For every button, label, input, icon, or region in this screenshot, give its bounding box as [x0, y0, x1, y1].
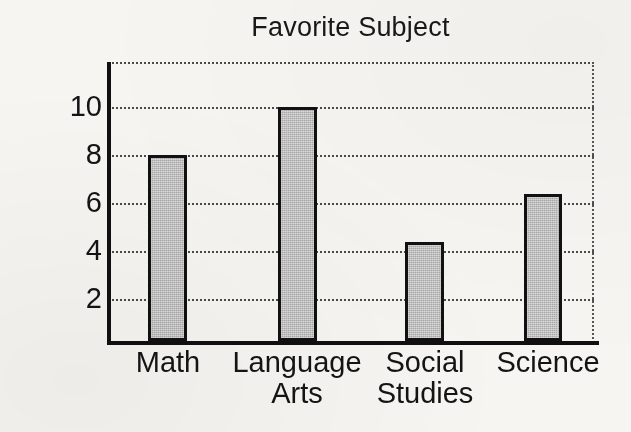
x-tick-label-science: Science	[482, 347, 614, 378]
chart-title: Favorite Subject	[107, 12, 594, 43]
y-tick-label-4: 4	[2, 236, 102, 265]
y-tick-label-2: 2	[2, 284, 102, 313]
y-tick-label-8: 8	[2, 140, 102, 169]
bar-science	[524, 194, 562, 341]
y-tick-label-6: 6	[2, 188, 102, 217]
right-axis-dotted-edge	[592, 62, 594, 343]
bar-chart: Favorite Subject Number of Students 10 8…	[0, 0, 631, 432]
x-axis-line	[107, 341, 599, 345]
x-tick-label-social-studies: Social Studies	[363, 347, 487, 410]
bar-social-studies	[405, 242, 444, 341]
x-tick-label-language-arts: Language Arts	[217, 347, 377, 410]
gridline-10	[109, 107, 594, 109]
x-axis-tick-labels: Math Language Arts Social Studies Scienc…	[107, 347, 607, 432]
x-tick-label-math: Math	[107, 347, 229, 378]
y-axis-line	[107, 62, 111, 345]
y-tick-label-10: 10	[2, 92, 102, 121]
y-axis-tick-labels: 10 8 6 4 2	[0, 0, 102, 432]
bar-language-arts	[278, 107, 317, 341]
plot-area	[107, 62, 594, 342]
gridline-top	[109, 62, 594, 64]
bar-math	[148, 155, 187, 341]
